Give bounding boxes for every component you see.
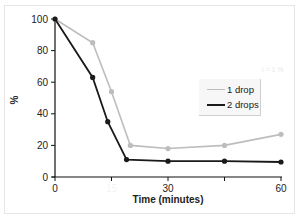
y-tick-label: 80 [37, 45, 49, 56]
y-tick-label: 60 [37, 77, 49, 88]
y-ticks: 020406080100 [31, 14, 55, 183]
data-point [109, 89, 114, 94]
faint-annotation: i = 1 % [262, 66, 284, 73]
y-tick-label: 0 [42, 172, 48, 183]
legend-swatch-black [207, 104, 225, 106]
x-axis-title: Time (minutes) [133, 194, 204, 205]
data-point [90, 75, 95, 80]
data-point [90, 40, 95, 45]
y-tick-label: 100 [31, 14, 48, 25]
y-tick-label: 40 [37, 108, 49, 119]
y-axis-title: % [9, 95, 20, 104]
data-point [222, 143, 227, 148]
data-point [105, 119, 110, 124]
x-tick-label: 30 [162, 183, 174, 194]
legend-swatch-gray [207, 89, 225, 90]
data-point [222, 159, 227, 164]
legend-label: 2 drops [227, 99, 259, 110]
x-tick-label: 60 [275, 183, 287, 194]
x-ticks: 0153060 [52, 177, 287, 194]
legend: 1 drop 2 drops [199, 79, 261, 116]
data-point [165, 159, 170, 164]
data-point [278, 132, 283, 137]
y-tick-label: 20 [37, 140, 49, 151]
x-tick-label: 0 [52, 183, 58, 194]
data-point [52, 16, 57, 21]
legend-label: 1 drop [227, 84, 254, 95]
x-tick-label: 15 [106, 183, 118, 194]
data-point [128, 143, 133, 148]
legend-item-1-drop: 1 drop [207, 84, 254, 95]
data-point [278, 159, 283, 164]
data-point [124, 157, 129, 162]
legend-item-2-drops: 2 drops [207, 99, 259, 110]
data-point [165, 146, 170, 151]
